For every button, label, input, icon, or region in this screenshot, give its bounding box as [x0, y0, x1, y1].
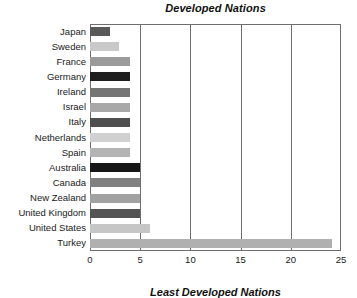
- y-axis-label: United Kingdom: [0, 208, 86, 218]
- y-axis-label: Turkey: [0, 238, 86, 248]
- y-axis-label: Spain: [0, 148, 86, 158]
- chart-title: Developed Nations: [90, 2, 341, 14]
- bar: [90, 118, 130, 127]
- bar: [90, 194, 140, 203]
- bar: [90, 72, 130, 81]
- y-axis-label: New Zealand: [0, 193, 86, 203]
- bar: [90, 57, 130, 66]
- x-tick-label: 25: [336, 255, 347, 265]
- bar: [90, 88, 130, 97]
- x-tick-label: 10: [185, 255, 196, 265]
- x-tick-label: 15: [235, 255, 246, 265]
- y-axis-label: United States: [0, 223, 86, 233]
- bars-group: [90, 24, 341, 251]
- y-axis-label: Italy: [0, 117, 86, 127]
- y-axis-label: Israel: [0, 102, 86, 112]
- bar: [90, 103, 130, 112]
- bar: [90, 163, 140, 172]
- y-axis-label: Australia: [0, 163, 86, 173]
- bar: [90, 42, 119, 51]
- bar: [90, 224, 150, 233]
- bar: [90, 178, 140, 187]
- bar: [90, 133, 130, 142]
- bar: [90, 148, 130, 157]
- x-tick-label: 5: [138, 255, 143, 265]
- y-axis-label: Ireland: [0, 87, 86, 97]
- x-axis-tick-labels: 0510152025: [90, 252, 341, 268]
- bar: [90, 27, 110, 36]
- y-axis-category-labels: JapanSwedenFranceGermanyIrelandIsraelIta…: [0, 24, 86, 251]
- y-axis-label: Sweden: [0, 42, 86, 52]
- y-axis-label: Netherlands: [0, 133, 86, 143]
- bottom-partial-caption: Least Developed Nations: [90, 286, 341, 298]
- y-axis-label: Germany: [0, 72, 86, 82]
- y-axis-label: Canada: [0, 178, 86, 188]
- y-axis-label: France: [0, 57, 86, 67]
- y-axis-label: Japan: [0, 27, 86, 37]
- x-tick-label: 20: [286, 255, 297, 265]
- x-tick-label: 0: [87, 255, 92, 265]
- bar: [90, 209, 140, 218]
- bar: [90, 239, 332, 248]
